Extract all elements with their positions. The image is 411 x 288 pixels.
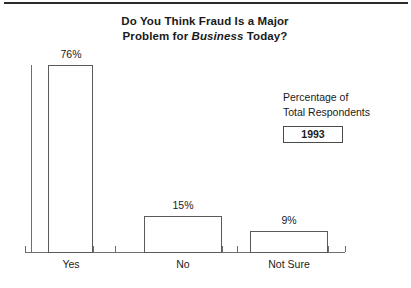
axis-tick xyxy=(25,246,26,252)
axis-tick xyxy=(237,246,238,252)
bar-yes xyxy=(48,65,93,253)
category-label-yes: Yes xyxy=(40,258,102,270)
category-label-not-sure: Not Sure xyxy=(251,258,327,270)
legend-title-line-1: Percentage of xyxy=(283,91,348,103)
legend-title-line-2: Total Respondents xyxy=(283,106,370,118)
bar-no xyxy=(144,216,222,253)
chart-figure: Do You Think Fraud Is a Major Problem fo… xyxy=(0,0,411,288)
y-axis-line xyxy=(31,65,32,253)
axis-tick xyxy=(345,246,346,252)
bar-value-label-no: 15% xyxy=(152,199,214,211)
axis-tick xyxy=(115,246,116,252)
bar-value-label-yes: 76% xyxy=(40,48,102,60)
legend-title: Percentage of Total Respondents xyxy=(283,90,403,120)
legend: Percentage of Total Respondents 1993 xyxy=(283,90,403,143)
axis-tick xyxy=(222,246,223,252)
plot-area: 76% Yes 15% No 9% Not Sure xyxy=(0,0,411,288)
axis-tick xyxy=(328,246,329,252)
legend-year-label: 1993 xyxy=(301,129,324,140)
legend-year-box: 1993 xyxy=(283,126,343,143)
bar-not-sure xyxy=(250,231,328,253)
axis-tick xyxy=(93,246,94,252)
bar-value-label-not-sure: 9% xyxy=(258,214,320,226)
category-label-no: No xyxy=(152,258,214,270)
